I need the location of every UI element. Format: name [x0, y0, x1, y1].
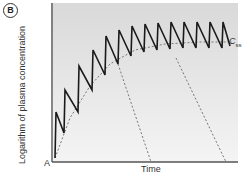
x-axis-label: Time [141, 164, 161, 174]
chart-plot [0, 0, 248, 180]
css-annotation: Css [229, 36, 242, 48]
origin-label: A [44, 158, 50, 168]
y-axis-label: Logarithm of plasma concentration [17, 20, 27, 170]
